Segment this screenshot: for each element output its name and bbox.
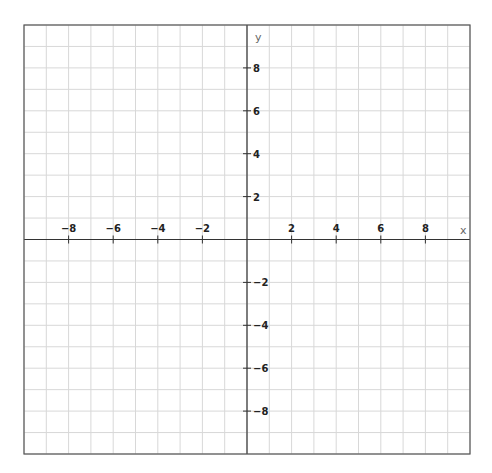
x-axis-label: x — [460, 224, 467, 237]
coordinate-plane: −8−6−4−224688642−2−4−6−8 x y — [0, 0, 492, 473]
x-tick-label: 6 — [377, 223, 384, 234]
y-axis-label: y — [255, 31, 262, 44]
y-tick-label: 4 — [253, 149, 260, 160]
x-tick-label: −6 — [106, 223, 121, 234]
y-tick-label: −4 — [253, 320, 268, 331]
x-tick-label: 8 — [422, 223, 429, 234]
y-tick-label: −2 — [253, 277, 268, 288]
y-tick-label: 6 — [253, 106, 260, 117]
x-tick-label: −4 — [150, 223, 165, 234]
y-tick-label: −8 — [253, 406, 268, 417]
y-tick-label: 2 — [253, 192, 260, 203]
x-tick-label: 4 — [333, 223, 340, 234]
x-tick-label: −2 — [195, 223, 210, 234]
x-tick-label: −8 — [61, 223, 76, 234]
y-tick-label: −6 — [253, 363, 268, 374]
y-tick-label: 8 — [253, 63, 260, 74]
x-tick-label: 2 — [288, 223, 295, 234]
